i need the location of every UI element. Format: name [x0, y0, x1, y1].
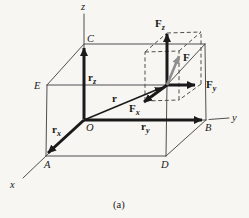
- point-label-a: A: [43, 159, 51, 170]
- vector-label-f: F: [183, 51, 190, 63]
- dashed-top-right: [179, 32, 201, 51]
- dashed-top-left: [145, 33, 167, 52]
- x-axis-line: [23, 156, 46, 178]
- dashed-top-back: [167, 32, 201, 33]
- point-label-c: C: [87, 33, 95, 44]
- arrow-r: [84, 88, 162, 121]
- vector-label-fz: Fz: [155, 17, 166, 32]
- vector-label-r: r: [112, 92, 117, 104]
- x-axis-label: x: [9, 179, 15, 190]
- figure-caption: (a): [113, 199, 125, 211]
- point-label-d: D: [160, 159, 169, 170]
- edge-d-b: [166, 120, 206, 156]
- arrow-f: [167, 56, 179, 85]
- vector-label-fx: Fx: [129, 102, 140, 117]
- main-box-edges: [46, 44, 206, 156]
- z-axis-label: z: [80, 1, 85, 12]
- vector-label-rx: rx: [52, 123, 61, 138]
- dashed-top-front: [145, 51, 179, 52]
- vector-label-fy: Fy: [206, 78, 217, 93]
- vector-diagram: z y x C E O A B D Fz F Fy Fx r rz rx ry …: [0, 0, 249, 218]
- dashed-bottom-front: [145, 100, 179, 101]
- y-axis-line: [209, 118, 229, 120]
- vector-label-ry: ry: [141, 120, 150, 135]
- vector-label-rz: rz: [88, 71, 97, 86]
- coordinate-axes: [23, 14, 229, 178]
- edge-e-a: [46, 85, 47, 156]
- point-label-e: E: [33, 80, 41, 91]
- point-label-o: O: [86, 122, 94, 133]
- y-axis-label: y: [231, 112, 237, 123]
- edge-c-e: [47, 44, 84, 85]
- point-label-b: B: [205, 122, 212, 133]
